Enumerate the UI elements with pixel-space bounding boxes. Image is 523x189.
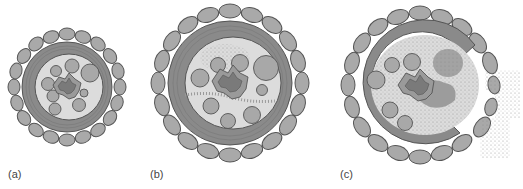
panel-b: (b) bbox=[145, 0, 340, 189]
stem-cross-section-early-infection bbox=[145, 0, 340, 189]
panel-label-a: (a) bbox=[8, 168, 21, 180]
stem-cross-section-healthy bbox=[0, 0, 150, 189]
panel-a: (a) bbox=[0, 0, 150, 189]
stem-cross-section-advanced-infection bbox=[330, 0, 523, 189]
panel-label-c: (c) bbox=[340, 168, 353, 180]
panel-c: (c) bbox=[330, 0, 523, 189]
panel-label-b: (b) bbox=[150, 168, 163, 180]
